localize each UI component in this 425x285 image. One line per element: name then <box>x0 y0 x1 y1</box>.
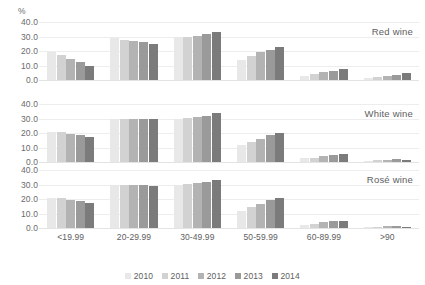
bar <box>110 119 119 163</box>
bar <box>66 200 75 228</box>
bar <box>266 135 275 162</box>
bar <box>66 59 75 80</box>
bar <box>402 227 411 228</box>
plot-area <box>39 104 419 162</box>
bar <box>275 198 284 228</box>
bar-group <box>364 170 411 228</box>
bar <box>149 44 158 80</box>
bar <box>319 222 328 228</box>
y-axis-tick-label: 20.0 <box>4 47 38 56</box>
bar-group <box>174 22 221 80</box>
legend-swatch-icon <box>235 273 241 279</box>
bar <box>329 71 338 80</box>
gridline <box>39 228 419 229</box>
bar <box>139 185 148 229</box>
x-axis-label: 20-29.99 <box>102 230 165 244</box>
bar <box>319 72 328 80</box>
bar <box>85 137 94 162</box>
legend-label: 2010 <box>134 271 153 281</box>
legend-label: 2013 <box>244 271 263 281</box>
bar <box>193 117 202 162</box>
bar <box>300 76 309 80</box>
bar <box>392 226 401 228</box>
y-axis-tick-label: 40.0 <box>4 100 38 109</box>
bar <box>212 180 221 228</box>
bar <box>266 50 275 80</box>
bar <box>247 56 256 80</box>
bar-group <box>174 170 221 228</box>
legend-item[interactable]: 2011 <box>162 271 189 281</box>
bar <box>129 185 138 229</box>
bar-group <box>364 104 411 162</box>
y-axis-tick-label: 40.0 <box>4 18 38 27</box>
bar-group <box>110 22 157 80</box>
bar-group <box>47 170 94 228</box>
bar <box>247 207 256 228</box>
legend-swatch-icon <box>162 273 168 279</box>
wine-price-distribution-chart: % 40.030.020.010.00.0Red wine40.030.020.… <box>0 0 425 285</box>
bar <box>129 119 138 163</box>
bar <box>193 183 202 228</box>
gridline <box>39 80 419 81</box>
bar <box>120 119 129 163</box>
bar <box>212 32 221 80</box>
x-axis-label: 50-59.99 <box>229 230 292 244</box>
bar <box>57 132 66 162</box>
gridline <box>39 162 419 163</box>
bar-group <box>237 22 284 80</box>
y-axis-tick-label: 10.0 <box>4 144 38 153</box>
bar <box>110 185 119 229</box>
bar <box>174 185 183 229</box>
bar <box>364 78 373 80</box>
legend-item[interactable]: 2012 <box>198 271 226 281</box>
bar <box>373 160 382 162</box>
bar <box>310 224 319 228</box>
bar-group <box>300 104 347 162</box>
bar <box>139 42 148 80</box>
bar <box>275 133 284 162</box>
bar <box>237 145 246 162</box>
bar <box>266 200 275 228</box>
panel-red-wine: 40.030.020.010.00.0Red wine <box>0 22 425 84</box>
bar <box>383 226 392 228</box>
y-axis-tick-label: 30.0 <box>4 33 38 42</box>
x-axis-label: 60-89.99 <box>292 230 355 244</box>
legend-item[interactable]: 2013 <box>235 271 263 281</box>
legend-item[interactable]: 2014 <box>272 271 300 281</box>
bar <box>120 40 129 80</box>
bar <box>373 77 382 80</box>
plot-area <box>39 22 419 80</box>
bar-group <box>300 22 347 80</box>
bar <box>174 37 183 81</box>
bar <box>237 211 246 228</box>
bar <box>329 155 338 162</box>
y-axis-unit-label: % <box>18 6 26 16</box>
legend-swatch-icon <box>272 273 278 279</box>
bar <box>66 134 75 162</box>
bar-group <box>237 104 284 162</box>
bar <box>402 73 411 80</box>
legend-swatch-icon <box>198 273 204 279</box>
legend-item[interactable]: 2010 <box>125 271 153 281</box>
bar <box>275 47 284 80</box>
y-axis-tick-label: 0.0 <box>4 224 38 233</box>
bar <box>139 119 148 163</box>
bar <box>329 221 338 228</box>
bar-group <box>47 22 94 80</box>
bar <box>76 135 85 162</box>
y-axis-tick-label: 10.0 <box>4 210 38 219</box>
bar <box>310 158 319 162</box>
x-axis-category-labels: <19.9920-29.9930-49.9950-59.9960-89.99>9… <box>39 230 419 244</box>
bar <box>202 116 211 162</box>
bar <box>383 76 392 80</box>
bar <box>149 186 158 228</box>
bar <box>256 52 265 80</box>
bar <box>402 160 411 162</box>
bar <box>85 66 94 81</box>
legend-swatch-icon <box>125 273 131 279</box>
bar <box>339 154 348 162</box>
legend: 20102011201220132014 <box>0 271 425 281</box>
bar <box>76 201 85 228</box>
x-axis-label: 30-49.99 <box>166 230 229 244</box>
bar <box>183 184 192 228</box>
